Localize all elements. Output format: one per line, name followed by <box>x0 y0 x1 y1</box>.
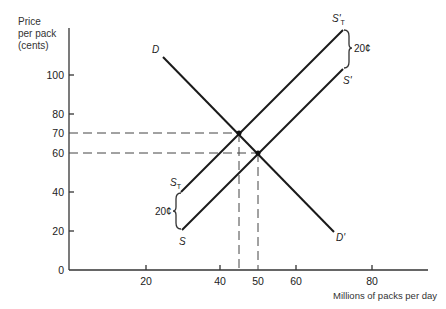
y-tick-40: 40 <box>52 186 64 198</box>
label-D-prime: D' <box>336 232 346 243</box>
tax-brace-lower <box>173 193 181 229</box>
x-tick-50: 50 <box>252 275 264 287</box>
y-axis-label-line-3: (cents) <box>18 40 49 51</box>
tax-incidence-chart: Price per pack (cents) 100 80 70 60 40 2… <box>0 0 446 309</box>
tax-brace-upper <box>344 30 352 68</box>
y-tick-70: 70 <box>52 127 64 139</box>
label-S-prime: S' <box>343 75 353 86</box>
x-tick-20: 20 <box>140 275 152 287</box>
y-tick-60: 60 <box>52 147 64 159</box>
supply-with-tax-curve-ST <box>181 30 343 192</box>
x-tick-40: 40 <box>214 275 226 287</box>
y-tick-80: 80 <box>52 108 64 120</box>
label-S: S <box>179 236 186 247</box>
y-ticks: 100 80 70 60 40 20 0 <box>46 69 74 276</box>
label-ST-prime: S'T <box>332 13 346 26</box>
x-tick-60: 60 <box>290 275 302 287</box>
y-axis-label-line-2: per pack <box>18 28 57 39</box>
supply-curve-S <box>182 69 343 230</box>
tax-label-upper: 20¢ <box>354 43 371 54</box>
y-tick-100: 100 <box>46 69 64 81</box>
label-ST: ST <box>170 177 182 190</box>
label-D: D <box>152 44 159 55</box>
equilibrium-guides <box>69 133 258 270</box>
x-tick-80: 80 <box>366 275 378 287</box>
x-axis-label: Millions of packs per day <box>333 290 437 301</box>
demand-curve-D <box>163 57 334 232</box>
tax-label-lower: 20¢ <box>155 206 172 217</box>
y-axis-label: Price per pack (cents) <box>18 16 57 51</box>
y-tick-0: 0 <box>58 264 64 276</box>
equilibrium-point-without-tax <box>256 151 261 156</box>
y-axis-label-line-1: Price <box>18 16 41 27</box>
equilibrium-point-with-tax <box>237 131 242 136</box>
y-tick-20: 20 <box>52 225 64 237</box>
x-ticks: 20 40 50 60 80 <box>140 265 378 287</box>
